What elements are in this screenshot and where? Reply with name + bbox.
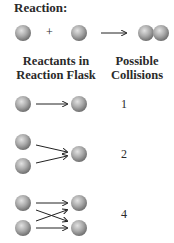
reactants-header: Reactants in Reaction Flask (4, 54, 108, 82)
collision-count-3: 4 (114, 207, 134, 222)
collisions-header: Possible Collisions (104, 54, 170, 82)
collision-count-2: 2 (114, 147, 134, 162)
product-sphere-icon (138, 25, 154, 41)
reactant-sphere-icon (71, 25, 87, 41)
collision-row-1 (15, 96, 87, 112)
collision-row-3 (15, 195, 87, 236)
collisions-header-line2: Collisions (104, 68, 170, 82)
collisions-header-line1: Possible (104, 54, 170, 68)
product-sphere-icon (153, 25, 169, 41)
reactants-header-line2: Reaction Flask (4, 68, 108, 82)
collision-count-1: 1 (114, 97, 134, 112)
reactants-header-line1: Reactants in (4, 54, 108, 68)
collision-row-2 (15, 134, 87, 174)
reaction-diagram (0, 0, 174, 243)
reactant-sphere-icon (15, 25, 31, 41)
plus-sign: + (46, 25, 53, 40)
equation-row (15, 25, 169, 41)
